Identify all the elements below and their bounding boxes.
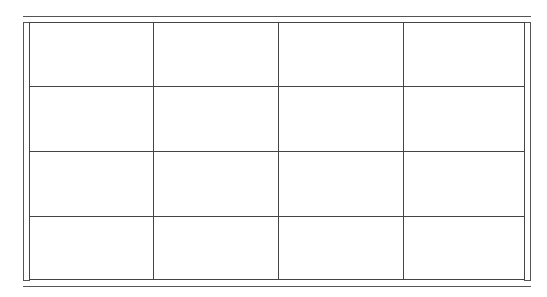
table-cell [30,87,154,152]
frame-left-rule [23,22,24,281]
table-cell [279,217,404,279]
frame-top-rule [23,16,531,17]
frame-right-bottom-join [524,280,531,281]
frame-right-rule [530,22,531,281]
table-cell [154,23,279,87]
table-cell [279,87,404,152]
table-cell [279,23,404,87]
table-cell [404,23,524,87]
table-cell [154,87,279,152]
table-cell [404,217,524,279]
table-cell [404,87,524,152]
table-cell [30,23,154,87]
frame-bottom-rule [23,286,531,287]
table-cell [154,217,279,279]
table-cell [30,217,154,279]
table-cell [404,152,524,217]
table-cell [30,152,154,217]
table-cell [279,152,404,217]
frame-left-bottom-join [23,280,30,281]
frame-right-top-join [524,22,531,23]
table-cell [154,152,279,217]
empty-grid-table [29,22,525,280]
